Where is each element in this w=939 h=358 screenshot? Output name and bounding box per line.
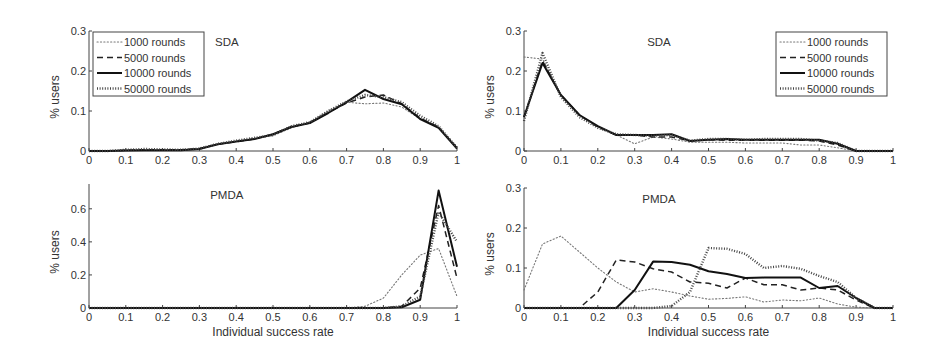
x-tick-label: 0.1 [118,311,133,323]
x-tick-label: 0.7 [339,154,354,166]
y-tick-label: 0.1 [71,105,86,117]
x-tick-label: 0.9 [413,311,428,323]
legend: 1000 rounds5000 rounds10000 rounds50000 … [93,32,204,96]
x-tick-label: 0.8 [376,311,391,323]
y-tick-label: 0 [515,145,521,157]
series-line [89,249,457,309]
x-tick-label: 0.7 [775,311,790,323]
x-tick-label: 0.3 [192,311,207,323]
series-line [89,206,457,309]
x-tick-label: 0.2 [590,311,605,323]
x-tick-label: 0.9 [848,311,863,323]
y-tick-label: 0.3 [71,25,86,37]
x-tick-label: 0.4 [229,154,244,166]
y-axis-label: % users [48,75,62,118]
legend-label: 5000 rounds [124,52,186,64]
y-tick-label: 0 [515,302,521,314]
x-tick-label: 0.5 [265,154,280,166]
x-tick-label: 0.5 [265,311,280,323]
x-tick-label: 0.5 [701,154,716,166]
x-tick-label: 0.4 [229,311,244,323]
x-tick-label: 0.4 [664,311,679,323]
x-tick-label: 0.7 [775,154,790,166]
series-line [89,212,457,308]
subplot-top-left: 00.10.20.30.40.50.60.70.80.9100.10.20.3%… [48,25,460,166]
y-tick-label: 0.2 [71,65,86,77]
x-tick-label: 0.3 [192,154,207,166]
y-tick-label: 0 [80,145,86,157]
y-tick-label: 0.1 [506,105,521,117]
x-tick-label: 0.3 [627,311,642,323]
y-tick-label: 0.3 [506,182,521,194]
subplot-bottom-right: 00.10.20.30.40.50.60.70.80.9100.10.20.3%… [483,182,896,339]
x-tick-label: 0.7 [339,311,354,323]
legend-label: 50000 rounds [124,83,192,95]
x-tick-label: 0.2 [155,311,170,323]
x-tick-label: 0.5 [701,311,716,323]
y-axis-label: % users [483,75,497,118]
x-tick-label: 0.6 [738,311,753,323]
y-tick-label: 0.2 [506,65,521,77]
subplot-top-right: 00.10.20.30.40.50.60.70.80.9100.10.20.3%… [483,25,896,166]
legend-label: 10000 rounds [807,67,875,79]
x-tick-label: 0.1 [118,154,133,166]
subplot-title: SDA [647,36,671,48]
y-tick-label: 0.3 [506,25,521,37]
series-line [89,102,457,151]
legend-label: 1000 rounds [807,36,869,48]
subplot-bottom-left: 00.10.20.30.40.50.60.70.80.9100.20.40.6%… [48,184,460,339]
x-tick-label: 0.2 [155,154,170,166]
legend-label: 1000 rounds [124,36,186,48]
x-tick-label: 1 [890,311,896,323]
x-tick-label: 0 [521,311,527,323]
y-tick-label: 0.6 [71,203,86,215]
series-line [89,191,457,308]
legend-label: 5000 rounds [807,52,869,64]
x-tick-label: 1 [454,311,460,323]
x-tick-label: 0.4 [664,154,679,166]
subplot-title: PMDA [210,189,244,201]
x-axis-label: Individual success rate [648,325,770,339]
y-tick-label: 0.4 [71,236,86,248]
y-tick-label: 0.2 [71,269,86,281]
legend-label: 50000 rounds [807,83,875,95]
series-line [524,262,893,308]
x-tick-label: 0.9 [413,154,428,166]
x-tick-label: 0.3 [627,154,642,166]
x-tick-label: 0.8 [812,154,827,166]
x-axis-label: Individual success rate [212,325,334,339]
x-tick-label: 0.6 [738,154,753,166]
x-tick-label: 0.1 [553,311,568,323]
x-tick-label: 0.8 [812,311,827,323]
x-tick-label: 0 [86,311,92,323]
series-line [524,260,893,308]
x-tick-label: 0 [521,154,527,166]
y-axis-label: % users [483,232,497,275]
subplot-title: PMDA [642,193,676,205]
x-tick-label: 0.2 [590,154,605,166]
legend-label: 10000 rounds [124,67,192,79]
figure: 00.10.20.30.40.50.60.70.80.9100.10.20.3%… [0,0,939,358]
x-tick-label: 0 [86,154,92,166]
x-tick-label: 0.9 [848,154,863,166]
subplot-title: SDA [215,36,239,48]
chart-canvas: 00.10.20.30.40.50.60.70.80.9100.10.20.3%… [0,0,939,358]
x-tick-label: 0.6 [302,154,317,166]
x-tick-label: 0.1 [553,154,568,166]
x-tick-label: 1 [890,154,896,166]
y-tick-label: 0.1 [506,262,521,274]
x-tick-label: 0.6 [302,311,317,323]
series-line [89,90,457,151]
x-tick-label: 0.8 [376,154,391,166]
y-tick-label: 0 [80,302,86,314]
legend: 1000 rounds5000 rounds10000 rounds50000 … [776,32,887,96]
y-tick-label: 0.2 [506,222,521,234]
x-tick-label: 1 [454,154,460,166]
y-axis-label: % users [48,230,62,273]
